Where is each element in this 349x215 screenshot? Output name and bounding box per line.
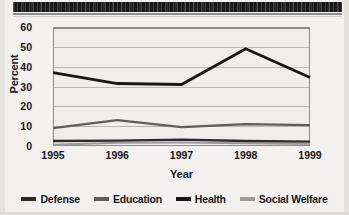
x-tick-label: 1996 (95, 149, 139, 161)
series-line-social-welfare (53, 142, 310, 144)
line-chart: Percent 0102030405060 199519961997199819… (0, 18, 349, 188)
figure-container: Percent 0102030405060 199519961997199819… (0, 0, 349, 215)
y-tick-label: 10 (0, 121, 32, 132)
y-tick-label: 40 (0, 61, 32, 72)
page-bottom-margin (0, 212, 349, 215)
legend-label: Defense (40, 193, 79, 205)
series-line-health (53, 49, 310, 85)
x-tick-label: 1997 (160, 149, 204, 161)
legend-label: Education (113, 193, 162, 205)
series-line-education (53, 120, 310, 128)
x-tick-label: 1995 (31, 149, 75, 161)
legend-item-defense[interactable]: Defense (21, 193, 79, 205)
y-tick-label: 0 (0, 141, 32, 152)
legend-swatch-icon (240, 197, 255, 201)
legend-swatch-icon (176, 197, 191, 201)
legend-swatch-icon (94, 197, 109, 201)
y-tick-label: 60 (0, 22, 32, 33)
y-tick-label: 50 (0, 42, 32, 53)
y-tick-label: 20 (0, 101, 32, 112)
legend-item-social-welfare[interactable]: Social Welfare (240, 193, 328, 205)
legend-item-education[interactable]: Education (94, 193, 162, 205)
series-lines-layer (53, 27, 310, 146)
legend-item-health[interactable]: Health (176, 193, 226, 205)
scanned-black-header-bar (13, 2, 342, 12)
y-tick-label: 30 (0, 81, 32, 92)
legend-swatch-icon (21, 197, 36, 201)
x-axis-title: Year (53, 168, 310, 180)
x-tick-label: 1999 (288, 149, 332, 161)
header-rule-secondary (13, 16, 342, 17)
chart-legend: DefenseEducationHealthSocial Welfare (0, 186, 349, 212)
legend-label: Social Welfare (259, 193, 328, 205)
legend-label: Health (195, 193, 226, 205)
series-line-defense (53, 140, 310, 142)
x-tick-label: 1998 (224, 149, 268, 161)
